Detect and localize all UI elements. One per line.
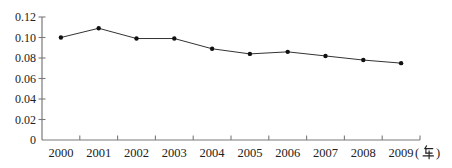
x-tick-label: 2007 [313,146,338,160]
line-chart: 00.020.040.060.080.100.12200020012002200… [0,0,452,168]
y-tick-label: 0.06 [15,72,36,86]
x-tick-label: 2002 [124,146,149,160]
data-point [210,47,214,51]
y-tick-label: 0.10 [15,31,36,45]
x-tick-label: 2008 [351,146,376,160]
x-tick-label: 2006 [275,146,300,160]
unit-close-paren: ) [436,146,440,160]
data-point [97,26,101,30]
y-tick-label: 0.02 [15,113,36,127]
data-point [399,61,403,65]
data-point [323,54,327,58]
x-tick-label: 2005 [237,146,262,160]
x-axis-unit-label: () [415,146,440,160]
data-line [61,28,401,63]
x-tick-label: 2003 [162,146,187,160]
y-tick-label: 0.08 [15,51,36,65]
axes [42,17,420,140]
line-chart-figure: 00.020.040.060.080.100.12200020012002200… [0,0,452,168]
y-tick-label: 0.04 [15,92,36,106]
data-point [172,36,176,40]
data-point [361,58,365,62]
x-tick-label: 2000 [48,146,73,160]
data-point [134,36,138,40]
y-tick-label: 0.12 [15,10,36,24]
data-point [248,52,252,56]
x-tick-label: 2004 [200,146,226,160]
data-point [286,50,290,54]
x-axis-ticks [80,136,420,141]
x-tick-label: 2001 [86,146,111,160]
x-tick-label: 2009 [389,146,414,160]
y-axis-ticks: 00.020.040.060.080.100.12 [15,10,46,147]
unit-open-paren: ( [415,146,419,160]
x-axis-labels: 2000200120022003200420052006200720082009 [48,146,413,160]
data-point [59,35,63,39]
year-character-glyph [423,146,433,159]
y-tick-label: 0 [30,133,36,147]
